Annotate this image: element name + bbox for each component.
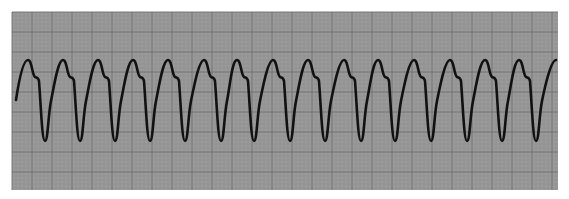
ecg-trace-canvas xyxy=(0,0,569,199)
